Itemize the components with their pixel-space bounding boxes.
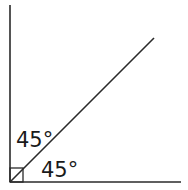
upper-angle-label: 45° (16, 128, 53, 152)
lower-angle-label: 45° (41, 158, 78, 182)
angle-diagram: 45° 45° (0, 0, 188, 190)
bisector-ray (10, 38, 154, 182)
